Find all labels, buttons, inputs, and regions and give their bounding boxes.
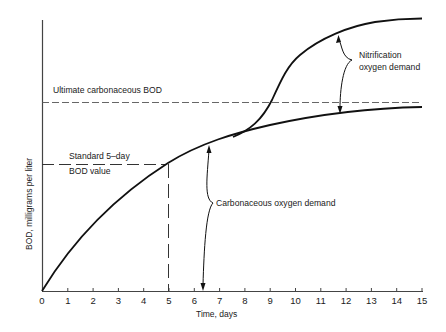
x-tick-labels: 0 1 2 3 4 5 6 7 8 9 10 11 12 13 14 15 — [39, 295, 427, 306]
nitrification-arrow-down — [340, 60, 352, 108]
carbonaceous-oxygen-demand-label: Carbonaceous oxygen demand — [216, 198, 336, 208]
nitrification-curve — [233, 19, 422, 138]
arrowhead-icon — [336, 35, 341, 43]
tick-label: 6 — [192, 295, 197, 306]
nitrification-oxygen-demand-label: oxygen demand — [359, 62, 420, 72]
tick-label: 3 — [116, 295, 121, 306]
tick-label: 8 — [242, 295, 247, 306]
carbonaceous-arrow-up — [207, 150, 213, 203]
tick-label: 1 — [65, 295, 70, 306]
x-axis-label: Time, days — [196, 309, 237, 319]
tick-label: 15 — [417, 295, 428, 306]
tick-label: 4 — [141, 295, 146, 306]
tick-label: 2 — [90, 295, 95, 306]
x-ticks — [68, 288, 422, 291]
carbonaceous-arrow-down — [203, 203, 213, 285]
tick-label: 0 — [39, 295, 44, 306]
bod-chart: 0 1 2 3 4 5 6 7 8 9 10 11 12 13 14 15 Ti… — [0, 0, 446, 332]
y-axis-label: BOD, milligrams per liter — [24, 158, 34, 250]
tick-label: 7 — [217, 295, 222, 306]
tick-label: 10 — [290, 295, 301, 306]
standard-5day-label: Standard 5–day — [69, 151, 130, 161]
nitrification-arrow-up — [339, 40, 352, 60]
arrowhead-icon — [201, 283, 206, 291]
arrowhead-icon — [207, 145, 212, 153]
bod-value-label: BOD value — [69, 166, 111, 176]
tick-label: 9 — [268, 295, 273, 306]
ultimate-carbonaceous-bod-label: Ultimate carbonaceous BOD — [53, 85, 162, 95]
tick-label: 13 — [366, 295, 377, 306]
tick-label: 11 — [316, 295, 326, 306]
tick-label: 5 — [166, 295, 171, 306]
nitrification-label: Nitrification — [359, 50, 402, 60]
tick-label: 14 — [391, 295, 402, 306]
tick-label: 12 — [341, 295, 352, 306]
